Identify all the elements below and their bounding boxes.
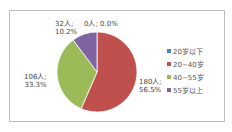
legend-label: 20岁以下 bbox=[173, 46, 203, 56]
legend-item-40-55: 40~55岁 bbox=[167, 70, 204, 83]
label-106: 106人; 33.3% bbox=[24, 73, 47, 89]
legend-label: 55岁以上 bbox=[173, 85, 203, 95]
label-106-count: 106人; bbox=[24, 73, 47, 81]
label-32-pct: 10.2% bbox=[55, 28, 77, 36]
legend-label: 40~55岁 bbox=[173, 72, 204, 82]
legend-item-under-20: 20岁以下 bbox=[167, 44, 204, 57]
legend-label: 20~40岁 bbox=[173, 59, 204, 69]
label-32-count: 32人; bbox=[55, 20, 77, 28]
legend-swatch-icon bbox=[167, 62, 171, 66]
legend-swatch-icon bbox=[167, 75, 171, 79]
legend-item-20-40: 20~40岁 bbox=[167, 57, 204, 70]
legend-swatch-icon bbox=[167, 88, 171, 92]
legend: 20岁以下 20~40岁 40~55岁 55岁以上 bbox=[167, 44, 204, 96]
legend-item-55-plus: 55岁以上 bbox=[167, 83, 204, 96]
label-180: 180人; 56.5% bbox=[139, 78, 162, 94]
label-180-count: 180人; bbox=[139, 78, 162, 86]
label-zero: 0人; 0.0% bbox=[84, 20, 118, 28]
label-180-pct: 56.5% bbox=[139, 86, 162, 94]
legend-swatch-icon bbox=[167, 49, 171, 53]
label-106-pct: 33.3% bbox=[24, 81, 47, 89]
label-32: 32人; 10.2% bbox=[55, 20, 77, 36]
